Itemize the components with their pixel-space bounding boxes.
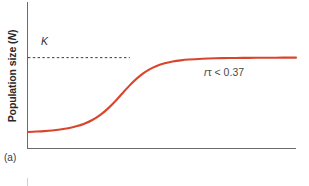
growth-rate-annotation: rτ < 0.37 [204, 66, 244, 78]
panel-letter: (a) [4, 152, 16, 163]
logistic-growth-figure: Population size (N) K rτ < 0.37 (a) [0, 0, 309, 186]
plot-canvas [0, 0, 309, 186]
annotation-inequality: < 0.37 [212, 66, 244, 78]
logistic-growth-curve [28, 58, 296, 132]
carrying-capacity-label: K [41, 35, 48, 47]
panel-bleed-mark [27, 178, 28, 186]
